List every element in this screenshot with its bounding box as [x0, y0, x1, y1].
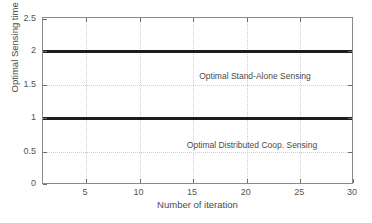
tick-y-2: [43, 51, 47, 52]
xticklabel-20: 20: [241, 187, 251, 197]
tick-x-15: [193, 179, 194, 183]
x-axis-label: Number of iteration: [42, 199, 353, 210]
tick-x-top-10: [140, 18, 141, 22]
tick-y-right-1-5: [348, 85, 352, 86]
yticklabel-0-5: 0.5: [8, 146, 36, 156]
gridline-x-15: [193, 18, 194, 183]
xticklabel-5: 5: [82, 187, 87, 197]
tick-x-top-15: [193, 18, 194, 22]
annotation-distributed-coop: Optimal Distributed Coop. Sensing: [187, 140, 317, 150]
yticklabel-0: 0: [8, 178, 36, 188]
tick-x-20: [247, 179, 248, 183]
series-line-stand-alone: [43, 50, 352, 53]
plot-area: Optimal Stand-Alone Sensing Optimal Dist…: [42, 17, 353, 184]
tick-y-1-5: [43, 85, 47, 86]
tick-x-top-5: [86, 18, 87, 22]
tick-x-25: [300, 179, 301, 183]
xticklabel-10: 10: [133, 187, 143, 197]
xticklabel-15: 15: [187, 187, 197, 197]
tick-x-10: [140, 179, 141, 183]
gridline-y-1-5: [43, 85, 352, 86]
tick-x-top-25: [300, 18, 301, 22]
tick-y-right-2: [348, 51, 352, 52]
gridline-x-5: [86, 18, 87, 183]
xticklabel-25: 25: [294, 187, 304, 197]
gridline-x-10: [140, 18, 141, 183]
annotation-stand-alone: Optimal Stand-Alone Sensing: [199, 71, 311, 81]
tick-y-1: [43, 118, 47, 119]
tick-y-0-5: [43, 152, 47, 153]
tick-y-right-1: [348, 118, 352, 119]
tick-x-30: [353, 179, 354, 183]
gridline-x-20: [247, 18, 248, 183]
tick-x-5: [86, 179, 87, 183]
tick-y-right-0-5: [348, 152, 352, 153]
xticklabel-30: 30: [347, 187, 357, 197]
chart-figure: Optimal Stand-Alone Sensing Optimal Dist…: [0, 0, 372, 223]
series-line-distributed-coop: [43, 117, 352, 120]
gridline-y-0-5: [43, 152, 352, 153]
tick-y-0: [43, 184, 47, 185]
gridline-x-25: [300, 18, 301, 183]
y-axis-label: Optimal Sensing time (ms): [9, 0, 20, 107]
tick-y-2-5: [43, 19, 47, 20]
tick-x-top-20: [247, 18, 248, 22]
yticklabel-1: 1: [8, 112, 36, 122]
